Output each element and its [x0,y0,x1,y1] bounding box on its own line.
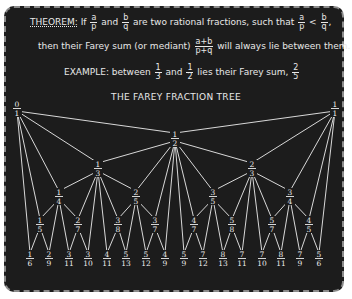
tree-node-2-7: 27 [73,216,83,234]
svg-text:3: 3 [288,188,293,197]
svg-text:1: 1 [57,188,62,197]
tree-edge [252,111,335,163]
svg-text:12: 12 [198,259,208,268]
tree-edge [213,171,252,191]
tree-edge [98,141,175,163]
svg-text:6: 6 [28,259,33,268]
tree-node-3-4: 34 [285,188,295,206]
tree-edge [290,111,335,191]
tree-edge [175,111,335,133]
svg-text:9: 9 [298,259,303,268]
tree-edge [309,111,335,219]
svg-text:5: 5 [230,216,235,225]
svg-text:5: 5 [270,216,275,225]
tree-edge [136,199,146,253]
tree-node-1-6: 16 [25,250,35,268]
tree-edge [213,199,223,253]
tree-edge [17,111,40,219]
svg-text:2: 2 [134,188,139,197]
svg-text:13: 13 [218,259,228,268]
tree-node-1-2: 12 [170,130,180,148]
svg-text:5: 5 [38,225,43,234]
tree-edge [59,199,69,253]
tree-edge [17,111,175,133]
svg-text:4: 4 [192,216,197,225]
svg-text:1: 1 [333,100,338,109]
tree-node-3-10: 310 [83,250,93,268]
tree-node-2-3: 23 [247,160,257,178]
tree-edge [319,111,335,253]
tree-node-1-5: 15 [35,216,45,234]
tree-edge [252,171,290,191]
tree-node-4-5: 45 [304,216,314,234]
tree-node-3-7: 37 [150,216,160,234]
tree-node-7-12: 712 [198,250,208,268]
svg-text:3: 3 [116,216,121,225]
tree-node-7-11: 711 [237,250,247,268]
svg-text:10: 10 [83,259,93,268]
tree-node-0-1: 01 [12,100,22,118]
svg-text:3: 3 [67,250,72,259]
svg-text:5: 5 [307,225,312,234]
svg-text:13: 13 [121,259,131,268]
tree-edge [98,171,136,191]
tree-node-3-8: 38 [113,216,123,234]
tree-node-5-9: 59 [179,250,189,268]
svg-text:7: 7 [270,225,275,234]
svg-text:5: 5 [124,250,129,259]
tree-node-3-5: 35 [208,188,218,206]
svg-text:1: 1 [333,109,338,118]
tree-node-1-3: 13 [93,160,103,178]
tree-node-5-7: 57 [267,216,277,234]
svg-text:11: 11 [237,259,247,268]
svg-text:7: 7 [260,250,265,259]
svg-text:5: 5 [317,250,322,259]
svg-text:8: 8 [116,225,121,234]
svg-text:9: 9 [182,259,187,268]
tree-edge [126,199,136,253]
tree-node-8-13: 813 [218,250,228,268]
svg-text:4: 4 [307,216,312,225]
svg-text:11: 11 [64,259,74,268]
tree-edge [290,199,300,253]
svg-text:7: 7 [201,250,206,259]
tree-edge [98,171,107,253]
svg-text:1: 1 [28,250,33,259]
tree-edge [59,171,98,191]
svg-text:7: 7 [192,225,197,234]
tree-node-7-9: 79 [295,250,305,268]
tree-edge [165,141,175,253]
svg-text:4: 4 [57,197,62,206]
svg-text:6: 6 [317,259,322,268]
svg-text:4: 4 [288,197,293,206]
svg-text:9: 9 [47,259,52,268]
tree-node-7-10: 710 [257,250,267,268]
svg-text:5: 5 [144,250,149,259]
svg-text:1: 1 [173,130,178,139]
tree-edge [136,141,175,191]
svg-text:4: 4 [105,250,110,259]
svg-text:8: 8 [230,225,235,234]
svg-text:5: 5 [134,197,139,206]
tree-node-4-9: 49 [160,250,170,268]
svg-text:7: 7 [298,250,303,259]
svg-text:3: 3 [250,169,255,178]
svg-text:8: 8 [279,250,284,259]
tree-node-2-9: 29 [44,250,54,268]
svg-text:4: 4 [163,250,168,259]
tree-node-5-8: 58 [227,216,237,234]
svg-text:7: 7 [240,250,245,259]
tree-node-5-6: 56 [314,250,324,268]
tree-node-5-12: 512 [141,250,151,268]
svg-text:7: 7 [153,225,158,234]
svg-text:0: 0 [15,100,20,109]
svg-text:2: 2 [47,250,52,259]
tree-node-1-4: 14 [54,188,64,206]
tree-node-3-11: 311 [64,250,74,268]
tree-node-2-5: 25 [131,188,141,206]
svg-text:3: 3 [211,188,216,197]
svg-text:1: 1 [96,160,101,169]
tree-node-4-7: 47 [189,216,199,234]
tree-edge [203,199,213,253]
svg-text:2: 2 [250,160,255,169]
